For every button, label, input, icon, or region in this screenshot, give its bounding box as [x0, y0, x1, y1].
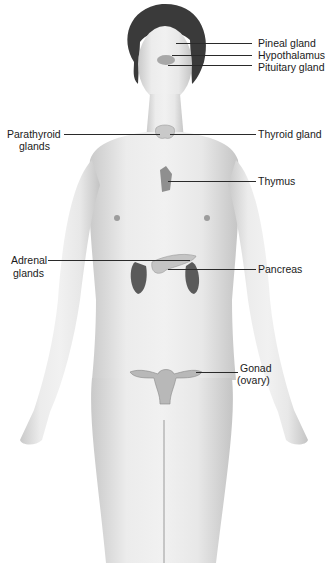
label-hypothalamus: Hypothalamus	[258, 49, 325, 61]
pituitary-shape	[157, 55, 175, 65]
label-pancreas: Pancreas	[258, 263, 302, 275]
label-adrenal-line2: glands	[13, 267, 44, 279]
adrenal-leader	[48, 260, 190, 261]
label-thyroid-gland: Thyroid gland	[258, 128, 322, 140]
label-gonad-line1: Gonad	[240, 362, 272, 374]
label-parathyroid-line2: glands	[19, 140, 50, 152]
gonad-leader	[196, 372, 238, 373]
left-arm	[20, 160, 100, 445]
pituitary-leader	[168, 65, 252, 66]
hypothalamus-leader	[172, 55, 252, 56]
pineal-leader	[176, 43, 252, 44]
label-pineal-gland: Pineal gland	[258, 37, 316, 49]
parathyroid-leader	[64, 134, 160, 135]
legs	[91, 378, 233, 563]
pancreas-leader	[168, 269, 256, 270]
thymus-leader	[168, 181, 256, 182]
label-thymus: Thymus	[258, 175, 295, 187]
right-arm	[228, 160, 308, 445]
label-pituitary-gland: Pituitary gland	[258, 61, 325, 73]
thyroid-shape	[155, 125, 174, 138]
thyroid-leader	[170, 134, 256, 135]
label-parathyroid-line1: Parathyroid	[7, 128, 61, 140]
label-adrenal-line1: Adrenal	[11, 254, 47, 266]
label-gonad-line2: (ovary)	[237, 374, 270, 386]
